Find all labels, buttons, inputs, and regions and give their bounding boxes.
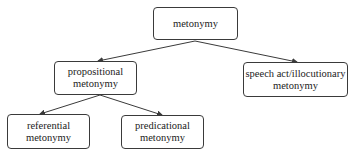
- node-referential-label-line1: referential: [27, 120, 70, 132]
- edge-metonymy-to-speech-act: [195, 41, 297, 62]
- node-speech-act-illocutionary-metonymy: speech act/illocutionary metonymy: [243, 62, 348, 97]
- node-propositional-metonymy: propositional metonymy: [54, 61, 137, 95]
- node-referential-metonymy: referential metonymy: [7, 114, 90, 149]
- edge-propositional-to-referential: [40, 95, 100, 114]
- edge-metonymy-to-propositional: [98, 41, 195, 61]
- metonymy-taxonomy-diagram: metonymy propositional metonymy speech a…: [0, 0, 351, 152]
- node-speech-act-label-line1: speech act/illocutionary: [245, 68, 345, 80]
- node-propositional-label-line2: metonymy: [73, 78, 118, 90]
- node-predicational-label-line2: metonymy: [140, 132, 185, 144]
- node-speech-act-label-line2: metonymy: [273, 80, 318, 92]
- node-propositional-label-line1: propositional: [68, 66, 123, 78]
- node-metonymy: metonymy: [153, 7, 238, 40]
- node-metonymy-label: metonymy: [173, 18, 218, 30]
- edge-propositional-to-predicational: [100, 95, 162, 115]
- node-referential-label-line2: metonymy: [26, 132, 71, 144]
- node-predicational-metonymy: predicational metonymy: [121, 115, 204, 149]
- node-predicational-label-line1: predicational: [135, 120, 190, 132]
